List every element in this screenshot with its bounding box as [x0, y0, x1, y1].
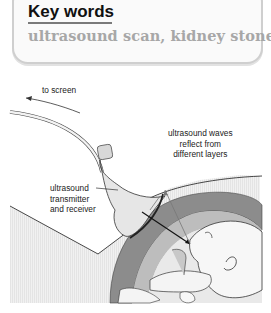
transmitter-label-line-1: ultrasound [50, 183, 96, 194]
transmitter-label-line-2: transmitter [50, 194, 96, 205]
transmitter-label: ultrasound transmitter and receiver [50, 183, 96, 215]
title-underline [28, 22, 112, 24]
ultrasound-illustration [0, 80, 271, 313]
transmitter-label-line-3: and receiver [50, 204, 96, 215]
key-words-terms: ultrasound scan, kidney stone [28, 27, 271, 44]
waves-label-line-1: ultrasound waves [168, 128, 233, 139]
ultrasound-diagram: to screen ultrasound waves reflect from … [0, 80, 271, 313]
key-words-title: Key words [28, 2, 114, 22]
waves-label: ultrasound waves reflect from different … [168, 128, 233, 160]
waves-label-line-2: reflect from [168, 139, 233, 150]
to-screen-label: to screen [42, 85, 76, 96]
waves-label-line-3: different layers [168, 149, 233, 160]
